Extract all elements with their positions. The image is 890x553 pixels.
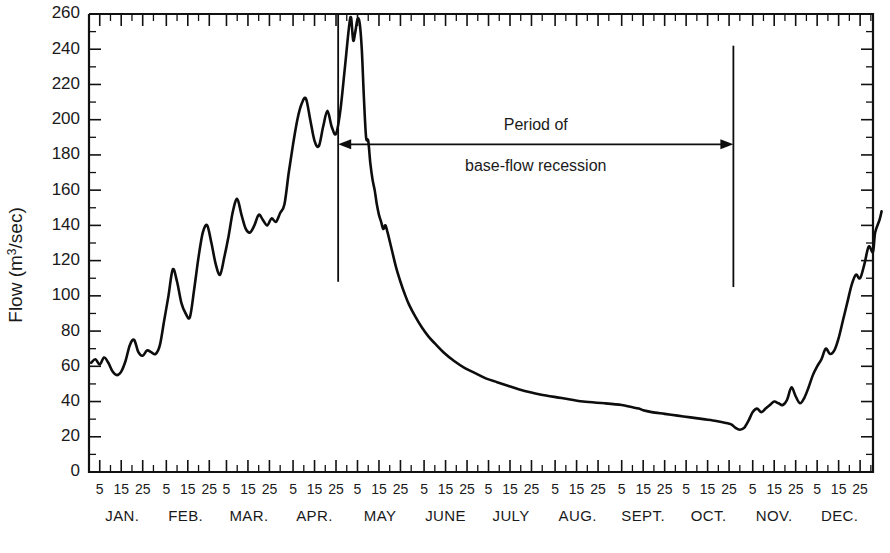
data-series-layer (91, 17, 881, 430)
y-axis-title: Flow (m3/sec) (5, 207, 26, 322)
x-tick-label: 25 (788, 481, 804, 497)
y-axis-ticks (89, 14, 873, 472)
x-tick-label: 15 (438, 481, 454, 497)
y-tick-label: 20 (61, 426, 80, 445)
y-tick-label: 220 (52, 74, 80, 93)
month-label: AUG. (559, 507, 597, 524)
x-tick-label: 15 (371, 481, 387, 497)
x-tick-label: 5 (749, 481, 757, 497)
y-tick-label: 180 (52, 144, 80, 163)
y-tick-label: 160 (52, 180, 80, 199)
x-tick-label: 25 (657, 481, 673, 497)
x-axis-ticks (100, 14, 871, 472)
annotation-layer: Period ofbase-flow recession (338, 116, 733, 174)
x-tick-label: 25 (590, 481, 606, 497)
x-tick-label: 5 (223, 481, 231, 497)
streamflow-hydrograph-chart: Flow (m3/sec) 02040608010012014016018020… (0, 0, 890, 553)
month-label: MAR. (229, 507, 268, 524)
x-tick-label: 5 (682, 481, 690, 497)
x-tick-label: 25 (393, 481, 409, 497)
x-tick-label: 25 (135, 481, 151, 497)
annotation-arrow-head-right (720, 139, 733, 149)
y-tick-label: 140 (52, 215, 80, 234)
x-tick-label: 5 (485, 481, 493, 497)
y-tick-label: 0 (71, 461, 80, 480)
x-tick-label: 5 (420, 481, 428, 497)
x-tick-label: 5 (289, 481, 297, 497)
x-tick-label: 15 (307, 481, 323, 497)
x-tick-label: 5 (96, 481, 104, 497)
month-label: JULY (492, 507, 529, 524)
x-axis-month-labels: JAN.FEB.MAR.APR.MAYJUNEJULYAUG.SEPT.OCT.… (105, 507, 858, 524)
x-tick-label: 5 (162, 481, 170, 497)
month-label: DEC. (821, 507, 858, 524)
x-tick-label: 25 (201, 481, 217, 497)
y-tick-label: 60 (61, 356, 80, 375)
x-tick-label: 15 (635, 481, 651, 497)
y-tick-label: 200 (52, 109, 80, 128)
x-tick-label: 25 (459, 481, 475, 497)
month-label: NOV. (756, 507, 793, 524)
y-tick-label: 120 (52, 250, 80, 269)
annotation-line-2: base-flow recession (465, 157, 606, 174)
x-tick-label: 25 (328, 481, 344, 497)
x-tick-label: 25 (524, 481, 540, 497)
x-tick-label: 5 (354, 481, 362, 497)
x-tick-label: 15 (766, 481, 782, 497)
recession-period-markers (338, 14, 733, 287)
x-tick-label: 5 (813, 481, 821, 497)
flow-curve (91, 17, 881, 430)
annotation-line-1: Period of (504, 116, 569, 133)
y-tick-label: 80 (61, 321, 80, 340)
x-tick-label: 5 (551, 481, 559, 497)
y-axis-title-base: Flow (m (5, 255, 26, 323)
y-tick-label: 240 (52, 39, 80, 58)
x-tick-label: 15 (502, 481, 518, 497)
x-tick-label: 15 (831, 481, 847, 497)
month-label: APR. (296, 507, 333, 524)
y-axis-tick-labels: 020406080100120140160180200220240260 (52, 3, 80, 480)
y-axis-title-tail: /sec) (5, 207, 26, 248)
x-tick-label: 5 (618, 481, 626, 497)
annotation-arrow-head-left (338, 139, 351, 149)
x-tick-label: 15 (700, 481, 716, 497)
y-tick-label: 100 (52, 285, 80, 304)
month-label: SEPT. (621, 507, 665, 524)
x-tick-label: 15 (569, 481, 585, 497)
x-tick-label: 15 (180, 481, 196, 497)
x-tick-label: 25 (721, 481, 737, 497)
month-label: FEB. (168, 507, 203, 524)
x-tick-label: 15 (240, 481, 256, 497)
hydrograph-figure: Flow (m3/sec) 02040608010012014016018020… (0, 0, 890, 553)
x-axis-tick-labels: 5152551525515255152551525515255152551525… (96, 481, 868, 497)
y-tick-label: 40 (61, 391, 80, 410)
x-tick-label: 15 (113, 481, 129, 497)
month-label: JAN. (105, 507, 139, 524)
svg-text:Flow (m3/sec): Flow (m3/sec) (5, 207, 26, 322)
plot-frame (89, 14, 873, 472)
month-label: OCT. (691, 507, 727, 524)
y-tick-label: 260 (52, 3, 80, 22)
x-tick-label: 25 (852, 481, 868, 497)
month-label: MAY (364, 507, 397, 524)
x-tick-label: 25 (262, 481, 278, 497)
month-label: JUNE (425, 507, 466, 524)
